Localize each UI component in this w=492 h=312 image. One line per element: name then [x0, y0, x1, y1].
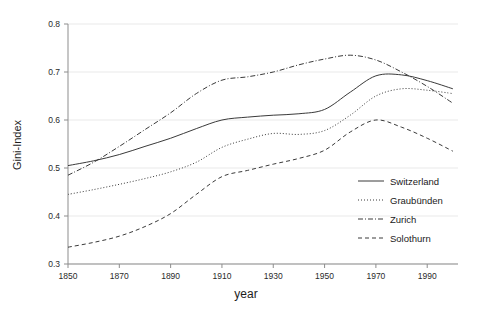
x-tick-label: 1970	[366, 271, 385, 281]
x-tick-label: 1850	[59, 271, 78, 281]
gini-index-line-chart: 18501870189019101930195019701990 0.30.40…	[0, 0, 492, 312]
x-tick-label: 1990	[418, 271, 437, 281]
y-tick-label: 0.8	[48, 19, 60, 29]
chart-plot-area: 18501870189019101930195019701990 0.30.40…	[0, 0, 492, 312]
legend-label: Switzerland	[390, 176, 439, 187]
legend-label: Graubünden	[390, 195, 443, 206]
y-axis-label-container: Gini-Index	[6, 0, 28, 290]
legend-label: Solothurn	[390, 233, 431, 244]
legend-label: Zurich	[390, 214, 416, 225]
x-axis-label-container: year	[0, 284, 492, 302]
chart-legend: SwitzerlandGraubündenZurichSolothurn	[358, 176, 443, 244]
x-axis-ticks: 18501870189019101930195019701990	[59, 264, 437, 281]
x-tick-label: 1870	[110, 271, 129, 281]
x-axis-label: year	[234, 287, 257, 301]
axes	[68, 24, 458, 264]
y-axis-ticks: 0.30.40.50.60.70.8	[48, 19, 68, 269]
x-tick-label: 1930	[264, 271, 283, 281]
y-tick-label: 0.7	[48, 67, 60, 77]
y-tick-label: 0.4	[48, 211, 60, 221]
y-axis-label: Gini-Index	[11, 120, 23, 170]
x-tick-label: 1950	[315, 271, 334, 281]
gridlines	[68, 24, 458, 264]
series-line-zurich	[68, 55, 453, 175]
y-tick-label: 0.6	[48, 115, 60, 125]
y-tick-label: 0.5	[48, 163, 60, 173]
x-tick-label: 1910	[212, 271, 231, 281]
x-tick-label: 1890	[161, 271, 180, 281]
y-tick-label: 0.3	[48, 259, 60, 269]
